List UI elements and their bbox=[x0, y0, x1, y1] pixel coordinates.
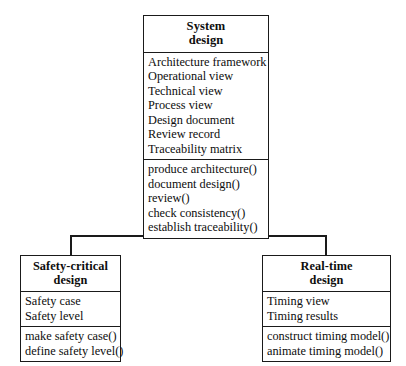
class-name-line: System bbox=[146, 19, 266, 33]
class-box-real-time-design[interactable]: Real-time design Timing view Timing resu… bbox=[262, 255, 391, 362]
attribute-row: Operational view bbox=[148, 69, 268, 84]
attribute-row: Process view bbox=[148, 98, 268, 113]
attribute-row: Design document bbox=[148, 113, 268, 128]
class-name-safety-critical-design: Safety-critical design bbox=[21, 256, 120, 292]
operation-row: produce architecture() bbox=[148, 162, 268, 177]
generalization-drop-left bbox=[70, 235, 72, 256]
class-name-line: Safety-critical bbox=[23, 259, 118, 273]
class-name-system-design: System design bbox=[144, 16, 268, 53]
uml-class-diagram: System design Architecture framework Ope… bbox=[0, 0, 406, 366]
class-box-system-design[interactable]: System design Architecture framework Ope… bbox=[143, 15, 269, 239]
attributes-compartment-system-design: Architecture framework Operational view … bbox=[144, 53, 268, 161]
class-name-line: design bbox=[23, 273, 118, 287]
class-box-safety-critical-design[interactable]: Safety-critical design Safety case Safet… bbox=[20, 255, 121, 362]
attribute-row: Review record bbox=[148, 127, 268, 142]
operation-row: define safety level() bbox=[25, 344, 120, 359]
attribute-row: Technical view bbox=[148, 84, 268, 99]
attribute-row: Timing results bbox=[267, 309, 390, 324]
operation-row: establish traceability() bbox=[148, 220, 268, 235]
operations-compartment-system-design: produce architecture() document design()… bbox=[144, 160, 268, 238]
operation-row: document design() bbox=[148, 177, 268, 192]
operation-row: check consistency() bbox=[148, 206, 268, 221]
generalization-drop-right bbox=[325, 235, 327, 256]
attribute-row: Safety level bbox=[25, 309, 120, 324]
class-name-real-time-design: Real-time design bbox=[263, 256, 390, 292]
class-name-line: design bbox=[146, 33, 266, 47]
attribute-row: Traceability matrix bbox=[148, 142, 268, 157]
attribute-row: Safety case bbox=[25, 294, 120, 309]
attribute-row: Timing view bbox=[267, 294, 390, 309]
operation-row: review() bbox=[148, 191, 268, 206]
operation-row: animate timing model() bbox=[267, 344, 390, 359]
operations-compartment-real-time-design: construct timing model() animate timing … bbox=[263, 327, 390, 361]
operation-row: make safety case() bbox=[25, 329, 120, 344]
class-name-line: Real-time bbox=[265, 259, 388, 273]
attribute-row: Architecture framework bbox=[148, 55, 268, 70]
operation-row: construct timing model() bbox=[267, 329, 390, 344]
operations-compartment-safety-critical-design: make safety case() define safety level() bbox=[21, 327, 120, 361]
attributes-compartment-real-time-design: Timing view Timing results bbox=[263, 292, 390, 327]
attributes-compartment-safety-critical-design: Safety case Safety level bbox=[21, 292, 120, 327]
class-name-line: design bbox=[265, 273, 388, 287]
